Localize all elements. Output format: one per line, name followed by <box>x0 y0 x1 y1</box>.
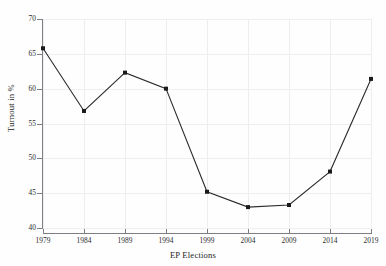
data-point-marker <box>123 71 127 75</box>
data-point-marker <box>41 46 45 50</box>
series-markers <box>41 46 373 209</box>
data-point-marker <box>246 205 250 209</box>
data-point-marker <box>287 203 291 207</box>
data-point-marker <box>82 109 86 113</box>
x-axis-title: EP Elections <box>0 250 386 260</box>
data-series-layer <box>0 0 386 266</box>
line-chart: 70656055504540 1979198419891994199920042… <box>0 0 386 266</box>
data-point-marker <box>369 77 373 81</box>
series-line <box>43 48 371 207</box>
data-point-marker <box>205 190 209 194</box>
data-point-marker <box>328 170 332 174</box>
data-point-marker <box>164 87 168 91</box>
y-axis-title: Turnout in % <box>6 53 16 163</box>
